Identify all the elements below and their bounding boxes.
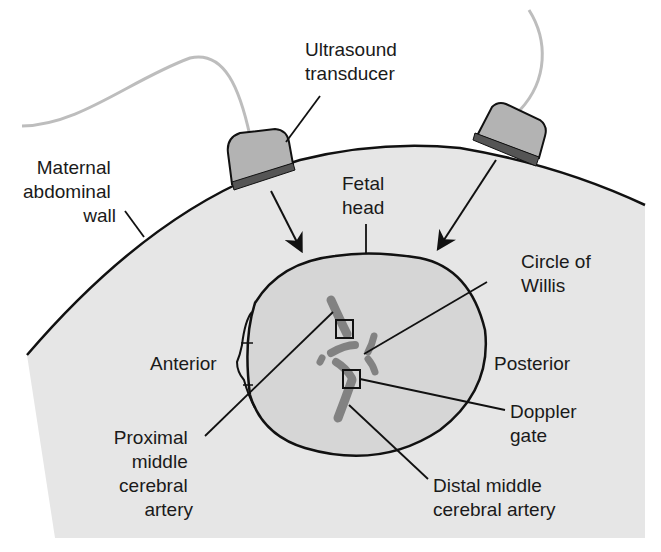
- transducer-cable-right: [520, 10, 542, 110]
- doppler-mca-diagram: Ultrasound transducer Maternal abdominal…: [0, 0, 661, 552]
- label-anterior: Anterior: [150, 353, 217, 374]
- leader-maternal-wall: [125, 211, 144, 237]
- label-maternal-abdominal-wall: Maternal abdominal wall: [23, 157, 116, 226]
- label-ultrasound-transducer: Ultrasound transducer: [305, 39, 402, 84]
- label-posterior: Posterior: [494, 353, 571, 374]
- transducer-cable-left: [22, 57, 250, 136]
- leader-transducer: [286, 96, 320, 142]
